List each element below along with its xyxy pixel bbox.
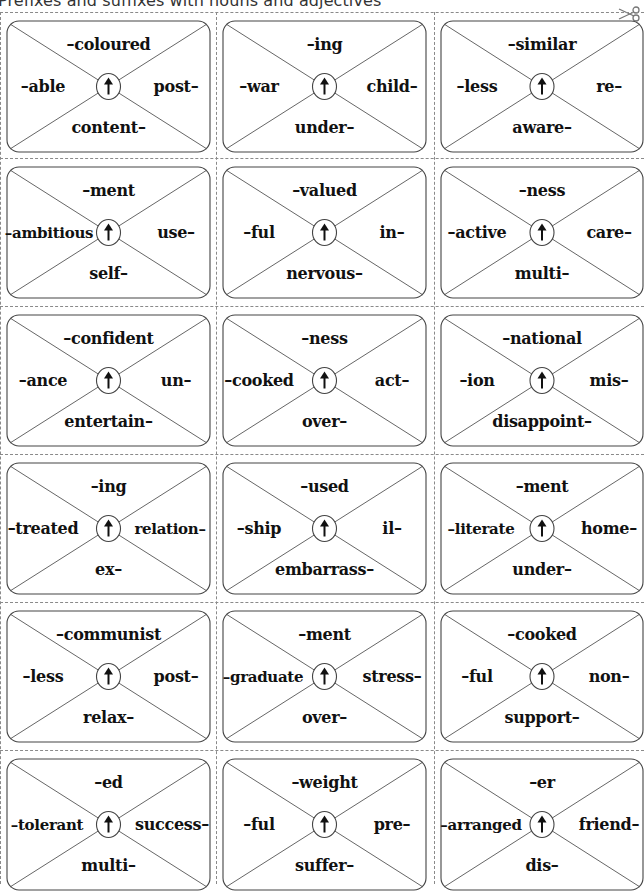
word-left: –ance <box>19 373 67 389</box>
arrow-up-icon <box>97 220 121 246</box>
arrow-up-icon <box>313 220 337 246</box>
word-left: –literate <box>448 521 515 536</box>
word-bottom: embarrass– <box>275 562 374 578</box>
word-right: stress– <box>363 669 422 685</box>
word-right: success– <box>135 817 209 833</box>
word-card: –weight–fulpre–suffer– <box>216 750 434 895</box>
word-card: –ness–activecare–multi– <box>434 158 644 305</box>
word-left: –less <box>457 79 498 95</box>
word-bottom: over– <box>302 414 347 430</box>
word-right: post– <box>154 79 199 95</box>
arrow-up-icon <box>313 74 337 100</box>
word-bottom: self– <box>89 266 128 282</box>
word-top: –national <box>502 331 582 347</box>
word-bottom: ex– <box>95 562 122 578</box>
word-top: –communist <box>56 627 161 643</box>
arrow-up-icon <box>313 812 337 838</box>
word-bottom: disappoint– <box>492 414 592 430</box>
word-card: –ed–tolerantsuccess–multi– <box>0 750 216 895</box>
word-bottom: relax– <box>83 710 134 726</box>
arrow-up-icon <box>97 516 121 542</box>
word-left: –ion <box>459 373 494 389</box>
word-top: –confident <box>63 331 153 347</box>
word-card: –ness–cookedact–over– <box>216 306 434 453</box>
word-left: –ship <box>237 521 281 537</box>
word-card: –er–arrangedfriend–dis– <box>434 750 644 895</box>
word-top: –valued <box>292 183 357 199</box>
word-card: –similar–lessre–aware– <box>434 12 644 159</box>
word-right: home– <box>581 521 637 537</box>
word-bottom: aware– <box>512 120 571 136</box>
arrow-up-icon <box>313 368 337 394</box>
word-card: –ment–literatehome–under– <box>434 454 644 601</box>
word-right: pre– <box>374 817 411 833</box>
word-bottom: support– <box>504 710 579 726</box>
word-card: –communist–lesspost–relax– <box>0 602 216 749</box>
word-right: re– <box>596 79 622 95</box>
word-top: –ness <box>519 183 565 199</box>
word-bottom: multi– <box>515 266 569 282</box>
word-card: –ing–treatedrelation–ex– <box>0 454 216 601</box>
word-left: –treated <box>8 521 79 537</box>
word-left: –able <box>21 79 65 95</box>
word-bottom: dis– <box>525 858 558 874</box>
word-card: –coloured–ablepost–content– <box>0 12 216 159</box>
word-top: –ment <box>298 627 351 643</box>
word-card: –valued–fulin–nervous– <box>216 158 434 305</box>
arrow-up-icon <box>97 74 121 100</box>
word-card: –national–ionmis–disappoint– <box>434 306 644 453</box>
word-card: –cooked–fulnon–support– <box>434 602 644 749</box>
word-top: –ment <box>516 479 569 495</box>
word-left: –cooked <box>224 373 293 389</box>
word-top: –ed <box>94 775 122 791</box>
word-left: –tolerant <box>11 817 83 832</box>
word-top: –similar <box>508 37 577 53</box>
arrow-up-icon <box>97 664 121 690</box>
word-card: –ment–ambitioususe–self– <box>0 158 216 305</box>
arrow-up-icon <box>530 812 554 838</box>
word-right: il– <box>382 521 401 537</box>
word-bottom: over– <box>302 710 347 726</box>
page-title: Prefixes and suffixes with nouns and adj… <box>0 0 381 11</box>
word-right: un– <box>161 373 191 389</box>
word-top: –ing <box>307 37 343 53</box>
word-top: –ing <box>91 479 127 495</box>
arrow-up-icon <box>530 74 554 100</box>
arrow-up-icon <box>97 812 121 838</box>
arrow-up-icon <box>530 516 554 542</box>
word-card: –ing–warchild–under– <box>216 12 434 159</box>
word-left: –graduate <box>223 669 304 684</box>
arrow-up-icon <box>530 220 554 246</box>
arrow-up-icon <box>530 664 554 690</box>
word-right: child– <box>367 79 418 95</box>
word-right: in– <box>380 225 405 241</box>
word-top: –used <box>300 479 349 495</box>
word-right: non– <box>589 669 630 685</box>
word-bottom: under– <box>512 562 571 578</box>
word-top: –cooked <box>507 627 576 643</box>
word-left: –active <box>448 225 507 241</box>
arrow-up-icon <box>530 368 554 394</box>
arrow-up-icon <box>313 516 337 542</box>
word-card: –confident–anceun–entertain– <box>0 306 216 453</box>
word-right: post– <box>154 669 199 685</box>
word-bottom: entertain– <box>64 414 152 430</box>
word-top: –weight <box>291 775 357 791</box>
word-top: –ness <box>301 331 347 347</box>
arrow-up-icon <box>97 368 121 394</box>
word-top: –er <box>529 775 555 791</box>
word-bottom: nervous– <box>286 266 362 282</box>
word-top: –ment <box>82 183 135 199</box>
arrow-up-icon <box>313 664 337 690</box>
word-left: –ambitious <box>5 225 93 240</box>
word-bottom: suffer– <box>295 858 354 874</box>
word-bottom: content– <box>71 120 145 136</box>
word-right: act– <box>375 373 409 389</box>
word-top: –coloured <box>67 37 151 53</box>
word-left: –ful <box>461 669 492 685</box>
word-left: –ful <box>243 225 274 241</box>
word-card: –ment–graduatestress–over– <box>216 602 434 749</box>
word-left: –less <box>23 669 64 685</box>
word-right: mis– <box>590 373 629 389</box>
word-left: –ful <box>243 817 274 833</box>
